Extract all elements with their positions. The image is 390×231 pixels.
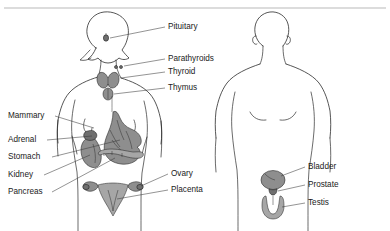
male-neck-left — [260, 46, 263, 64]
leader-testis — [282, 203, 305, 207]
parathyroid-glands — [115, 66, 123, 69]
bladder-organ — [261, 171, 285, 190]
label-placenta: Placenta — [171, 185, 203, 194]
label-ovary: Ovary — [171, 169, 194, 178]
leader-ovary — [141, 174, 168, 186]
label-pancreas: Pancreas — [8, 187, 43, 196]
male-neck-right — [283, 46, 286, 64]
adrenal-gland — [84, 130, 97, 140]
female-torso-left — [72, 100, 78, 231]
leader-kidney — [44, 155, 90, 175]
label-bladder: Bladder — [308, 162, 336, 171]
label-stomach: Stomach — [8, 152, 41, 161]
label-thyroid: Thyroid — [168, 67, 196, 76]
kidney-organ — [81, 137, 101, 168]
leader-thyroid — [121, 72, 165, 78]
prostate-gland — [269, 189, 277, 195]
label-parathyroids: Parathyroids — [168, 54, 214, 63]
leader-parathyroids — [124, 59, 165, 66]
label-prostate: Prostate — [308, 180, 339, 189]
male-shoulders — [215, 64, 331, 138]
label-thymus: Thymus — [168, 83, 197, 92]
thyroid-gland — [97, 72, 119, 88]
male-arm-left — [215, 138, 216, 172]
label-pituitary: Pituitary — [168, 22, 198, 31]
uterus-ovaries-organ — [83, 182, 143, 216]
male-chest-left — [250, 112, 266, 120]
female-hair-detail — [80, 50, 91, 60]
leader-bladder — [281, 167, 305, 176]
thymus-gland — [103, 88, 113, 100]
male-head-outline — [255, 12, 289, 46]
label-kidney: Kidney — [8, 170, 34, 179]
male-chest-right — [280, 112, 296, 120]
diagram-labels: Pituitary Parathyroids Thyroid Thymus Ma… — [8, 22, 339, 207]
male-torso-left — [232, 92, 238, 231]
female-torso-right — [141, 101, 147, 231]
label-adrenal: Adrenal — [8, 135, 36, 144]
label-testis: Testis — [308, 198, 329, 207]
label-mammary: Mammary — [8, 111, 45, 120]
endocrine-system-diagram: Pituitary Parathyroids Thyroid Thymus Ma… — [0, 0, 390, 231]
diagram-canvas: Pituitary Parathyroids Thyroid Thymus Ma… — [0, 0, 390, 231]
testis-organ — [262, 196, 284, 219]
